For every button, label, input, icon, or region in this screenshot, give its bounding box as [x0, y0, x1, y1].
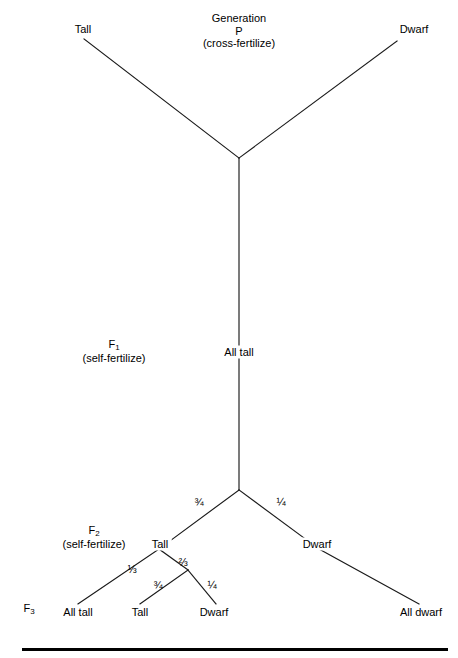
ratio-f2-tall: ¾	[194, 496, 203, 508]
figure-canvas: Generation P (cross-fertilize) Tall Dwar…	[0, 0, 458, 658]
f1-subscript: 1	[115, 343, 119, 352]
ratio-f3-dwarf: ¼	[207, 579, 216, 591]
f2-subscript: 2	[95, 529, 99, 538]
parent-tall-label: Tall	[75, 23, 92, 35]
f2-main: F2	[40, 524, 148, 538]
f1-main: F1	[60, 338, 168, 352]
generation-word: Generation	[212, 12, 266, 24]
edge-f3-fork-to-f3-tall	[140, 570, 188, 604]
generation-f2-label: F2 (self-fertilize)	[40, 524, 148, 551]
generation-f3-label: F3	[14, 602, 44, 616]
ratio-f3-tall: ¾	[153, 579, 162, 591]
edge-p-dwarf-to-cross	[239, 41, 397, 158]
f3-dwarf-node: Dwarf	[200, 606, 229, 618]
generation-p-header: Generation P (cross-fertilize)	[203, 12, 275, 50]
ratio-f2-dwarf: ¼	[276, 496, 285, 508]
edge-f2-dwarf-to-f3-all-dwarf	[319, 549, 419, 604]
f3-main: F3	[14, 602, 44, 616]
f2-tall-node: Tall	[149, 538, 172, 551]
f1-all-tall-node: All tall	[221, 346, 256, 359]
generation-f1-label: F1 (self-fertilize)	[60, 338, 168, 365]
edge-p-tall-to-cross	[84, 39, 239, 158]
parent-dwarf-label: Dwarf	[400, 23, 429, 35]
cross-fertilize-note: (cross-fertilize)	[203, 37, 275, 49]
f3-tall-node: Tall	[132, 606, 149, 618]
f3-all-dwarf-node: All dwarf	[400, 606, 442, 618]
f2-dwarf-node: Dwarf	[300, 538, 335, 551]
pedigree-lines	[0, 0, 458, 658]
edge-f2-tall-to-f3-all-tall	[78, 549, 159, 604]
f3-all-tall-node: All tall	[63, 606, 92, 618]
generation-p-letter: P	[235, 25, 242, 37]
ratio-f3-segregating: ⅔	[178, 556, 187, 568]
f1-self-fertilize-note: (self-fertilize)	[60, 352, 168, 365]
ratio-f3-all-tall: ⅓	[127, 563, 136, 575]
f2-self-fertilize-note: (self-fertilize)	[40, 538, 148, 551]
f3-subscript: 3	[30, 607, 34, 616]
bottom-divider	[22, 648, 448, 651]
